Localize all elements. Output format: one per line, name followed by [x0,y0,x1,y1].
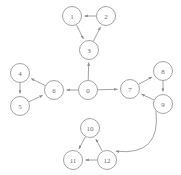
graph-edge-5-to-6 [29,95,43,101]
graph-diagram-canvas: 0123456789101112 [0,0,181,175]
node-label-1: 1 [70,13,74,21]
node-label-6: 6 [52,87,56,95]
graph-edge-9-to-12 [116,111,157,152]
graph-node-10[interactable]: 10 [81,119,100,138]
graph-svg: 0123456789101112 [0,0,181,175]
node-label-0: 0 [86,87,90,95]
graph-edge-9-to-7 [141,94,154,100]
graph-node-4[interactable]: 4 [11,64,30,83]
node-label-7: 7 [128,86,132,94]
graph-node-5[interactable]: 5 [11,97,30,116]
graph-edge-12-to-10 [96,139,102,151]
graph-edge-7-to-8 [139,77,152,84]
graph-edge-1-to-3 [76,25,83,39]
graph-edge-10-to-11 [79,137,85,149]
node-label-11: 11 [70,157,77,165]
graph-node-12[interactable]: 12 [98,151,117,170]
node-label-2: 2 [104,13,108,21]
node-label-5: 5 [18,103,22,111]
graph-node-7[interactable]: 7 [121,80,140,99]
nodes-layer: 0123456789101112 [11,7,173,170]
node-label-3: 3 [87,47,91,55]
graph-node-3[interactable]: 3 [80,41,99,60]
node-label-8: 8 [161,68,165,76]
node-label-9: 9 [161,101,165,109]
node-label-4: 4 [18,70,22,78]
graph-node-9[interactable]: 9 [154,95,173,114]
graph-node-2[interactable]: 2 [97,7,116,26]
graph-node-0[interactable]: 0 [79,81,98,100]
node-label-10: 10 [87,125,95,133]
graph-edge-3-to-2 [93,27,100,41]
graph-node-1[interactable]: 1 [63,7,82,26]
graph-node-11[interactable]: 11 [64,151,83,170]
node-label-12: 12 [104,157,112,165]
graph-node-6[interactable]: 6 [45,81,64,100]
graph-node-8[interactable]: 8 [154,62,173,81]
graph-edge-6-to-4 [31,79,45,86]
